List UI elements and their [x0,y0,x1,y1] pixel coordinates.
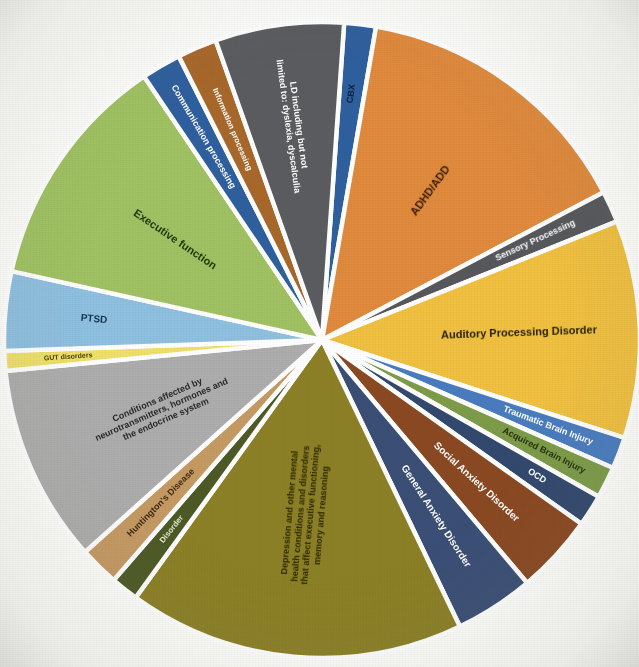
pie-chart-svg: CBXADHD/ADDSensory ProcessingAuditory Pr… [0,0,639,667]
pie-chart-figure: CBXADHD/ADDSensory ProcessingAuditory Pr… [0,0,639,667]
